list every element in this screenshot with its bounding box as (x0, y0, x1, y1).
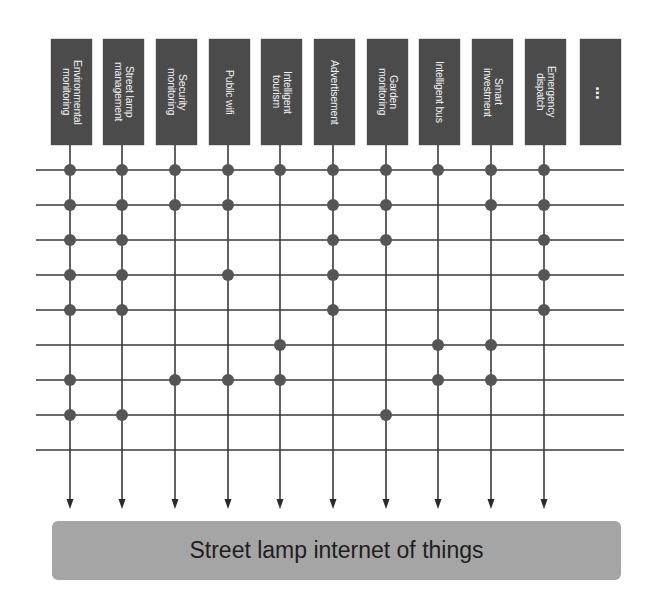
service-label: Intelligent tourism (270, 71, 293, 114)
connection-dot (222, 269, 234, 281)
service-box: Garden monitoring (367, 39, 408, 145)
arrow-down-icon (383, 499, 390, 509)
service-box: Public wifi (209, 39, 250, 145)
connection-dot (432, 339, 444, 351)
connection-dot (169, 164, 181, 176)
connection-dot (169, 199, 181, 211)
arrow-down-icon (488, 499, 495, 509)
service-label: Emergency dispatch (534, 66, 557, 117)
connection-dot (327, 269, 339, 281)
connection-dot (327, 164, 339, 176)
connection-dot (64, 409, 76, 421)
arrow-down-icon (67, 499, 74, 509)
connection-dot (432, 374, 444, 386)
arrow-down-icon (172, 499, 179, 509)
service-label: Environmental monitoring (60, 60, 83, 125)
connection-dot (64, 374, 76, 386)
connection-dot (485, 374, 497, 386)
connection-dot (64, 304, 76, 316)
connection-dot (538, 164, 550, 176)
street-lamp-iot-bus: Street lamp internet of things (52, 521, 621, 580)
service-box: Intelligent tourism (261, 39, 302, 145)
connection-dot (485, 199, 497, 211)
connection-dot (116, 234, 128, 246)
bus-label: Street lamp internet of things (189, 537, 483, 564)
connection-dot (538, 199, 550, 211)
service-box: Emergency dispatch (525, 39, 566, 145)
connection-dot (116, 409, 128, 421)
connection-dot (538, 234, 550, 246)
connection-dot (380, 199, 392, 211)
connection-dot (380, 164, 392, 176)
service-label: Street lamp management (112, 62, 135, 121)
service-label: Advertisement (329, 60, 341, 125)
connection-dot (116, 164, 128, 176)
more-services-box: ... (580, 39, 621, 145)
connection-dot (274, 374, 286, 386)
arrow-down-icon (277, 499, 284, 509)
service-box: Security monitoring (156, 39, 197, 145)
connection-dot (222, 199, 234, 211)
connection-dot (222, 164, 234, 176)
connection-dot (327, 304, 339, 316)
connection-dot (485, 339, 497, 351)
connection-dot (64, 234, 76, 246)
connection-dot (116, 304, 128, 316)
service-box: Intelligent bus (419, 39, 460, 145)
service-box: Street lamp management (103, 39, 144, 145)
connection-dot (380, 409, 392, 421)
arrow-down-icon (225, 499, 232, 509)
arrow-down-icon (435, 499, 442, 509)
arrow-down-icon (541, 499, 548, 509)
connection-dot (485, 164, 497, 176)
connection-dot (327, 199, 339, 211)
connection-dot (222, 374, 234, 386)
service-label: Intelligent bus (434, 61, 446, 123)
service-box: Advertisement (314, 39, 355, 145)
service-label: Smart investment (481, 68, 504, 117)
service-box: Smart investment (472, 39, 513, 145)
connection-dot (274, 339, 286, 351)
arrow-down-icon (119, 499, 126, 509)
service-label: Public wifi (224, 70, 236, 114)
arrow-down-icon (330, 499, 337, 509)
connection-dot (64, 199, 76, 211)
connection-dot (116, 199, 128, 211)
connection-dot (538, 269, 550, 281)
iot-bus-diagram: Environmental monitoringStreet lamp mana… (0, 0, 655, 605)
connection-dot (116, 269, 128, 281)
connection-dot (274, 164, 286, 176)
connection-dot (327, 234, 339, 246)
connection-dot (432, 164, 444, 176)
service-box: Environmental monitoring (51, 39, 92, 145)
service-label: Security monitoring (165, 68, 188, 115)
connection-dot (169, 374, 181, 386)
connection-dot (64, 269, 76, 281)
connection-dot (538, 304, 550, 316)
ellipsis-icon: ... (593, 86, 609, 99)
connection-dot (380, 234, 392, 246)
service-label: Garden monitoring (376, 68, 399, 115)
connection-dot (64, 164, 76, 176)
